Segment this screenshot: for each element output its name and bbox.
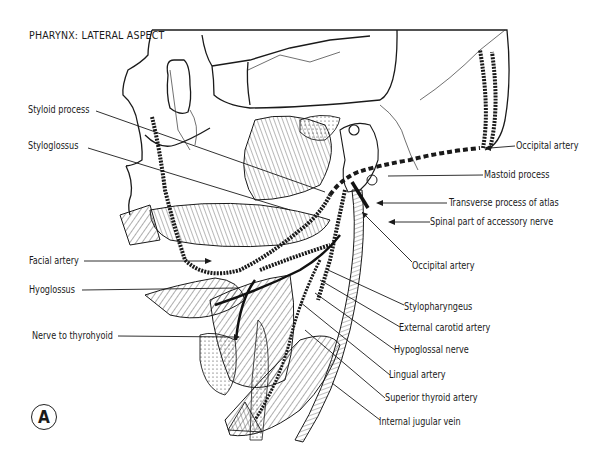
thyroid-cartilage: [200, 333, 236, 395]
label-transverse-process-of-atlas: Transverse process of atlas: [449, 197, 559, 209]
mastoid-shape: [340, 123, 378, 192]
label-nerve-to-thyrohyoid: Nerve to thyrohyoid: [32, 330, 113, 342]
label-hyoglossus: Hyoglossus: [29, 284, 75, 296]
occipital-branch-2: [490, 52, 496, 148]
occipital-artery-path: [330, 148, 480, 195]
label-lingual-artery: Lingual artery: [389, 369, 446, 381]
muscle-superior-constrictor: [244, 116, 332, 200]
label-facial-artery: Facial artery: [29, 255, 79, 267]
label-stylopharyngeus: Stylopharyngeus: [404, 301, 472, 313]
occipital-branch-1: [480, 50, 486, 148]
label-superior-thyroid-artery: Superior thyroid artery: [385, 392, 478, 404]
label-styloglossus: Styloglossus: [28, 140, 78, 152]
label-spinal-part-of-accessory-nerve: Spinal part of accessory nerve: [430, 216, 553, 228]
anatomy-illustration: [0, 0, 603, 463]
label-occipital-artery-lower: Occipital artery: [412, 260, 474, 272]
label-occipital-artery-upper: Occipital artery: [516, 140, 578, 152]
label-hypoglossal-nerve: Hypoglossal nerve: [394, 344, 469, 356]
label-styloid-process: Styloid process: [28, 104, 89, 116]
panel-marker: A: [31, 404, 57, 430]
label-external-carotid-artery: External carotid artery: [399, 322, 490, 334]
label-mastoid-process: Mastoid process: [484, 169, 549, 181]
label-internal-jugular-vein: Internal jugular vein: [379, 416, 461, 428]
